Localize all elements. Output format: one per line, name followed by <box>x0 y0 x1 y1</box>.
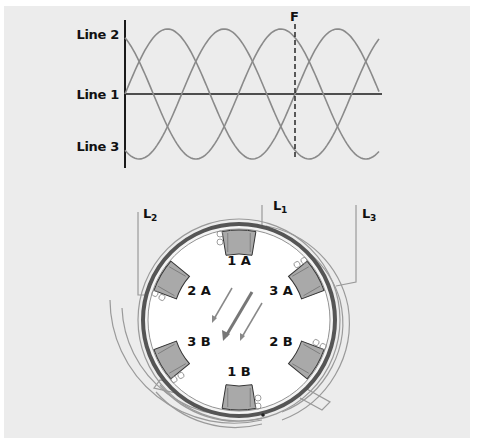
coil-label-1b: 1 B <box>227 364 250 379</box>
waveform-chart: F Line 2 Line 1 Line 3 <box>76 9 382 168</box>
label-line-1: Line 1 <box>76 87 119 102</box>
label-line-2: Line 2 <box>76 27 119 42</box>
motor-diagram: 1 A 2 A 3 A 3 B 2 B 1 B L2 L1 L3 <box>110 198 376 427</box>
marker-f-label: F <box>290 9 299 24</box>
three-phase-diagram: F Line 2 Line 1 Line 3 <box>0 0 477 444</box>
coil-label-3b: 3 B <box>187 334 210 349</box>
lead-l3-wire <box>336 205 356 286</box>
lead-label-l2: L2 <box>143 206 157 223</box>
label-line-3: Line 3 <box>76 139 119 154</box>
coil-label-2b: 2 B <box>269 334 292 349</box>
lead-label-l1: L1 <box>273 198 287 215</box>
coil-label-3a: 3 A <box>269 283 293 298</box>
lead-label-l3: L3 <box>362 206 376 223</box>
coil-label-1a: 1 A <box>227 253 251 268</box>
junction-dot <box>261 413 265 417</box>
coil-label-2a: 2 A <box>187 283 211 298</box>
